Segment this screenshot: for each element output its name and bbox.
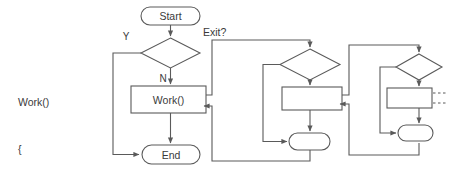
no-branch-label: N [159, 73, 166, 84]
continuation-dashes-icon [433, 93, 448, 103]
work-process-label: Work() [153, 94, 184, 106]
flow-group-3 [380, 54, 442, 141]
yes-branch-label: Y [123, 31, 130, 42]
exit-decision-label: Exit? [203, 26, 227, 38]
process-node-2[interactable] [282, 87, 342, 110]
flowchart-canvas: Start Exit? Y N Work() End [0, 0, 453, 169]
terminator-node-3[interactable] [398, 125, 433, 141]
start-node-label: Start [159, 10, 181, 22]
decision-node-3[interactable] [396, 54, 442, 80]
decision-node-2[interactable] [280, 49, 340, 80]
terminator-node-2[interactable] [289, 133, 330, 150]
end-node-label: End [162, 149, 181, 161]
flow-group-2 [263, 49, 342, 150]
process-node-3[interactable] [387, 88, 432, 108]
exit-decision-node[interactable] [141, 38, 200, 68]
